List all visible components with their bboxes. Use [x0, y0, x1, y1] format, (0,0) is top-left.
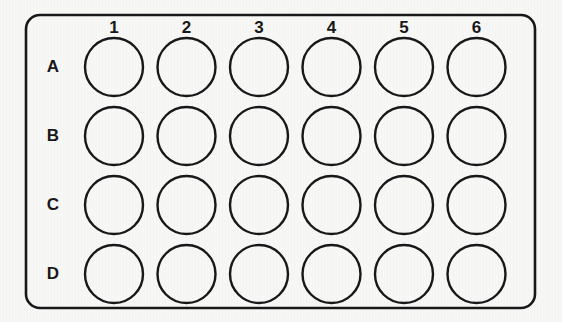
row-label-b: B	[40, 127, 66, 145]
well-d1[interactable]	[85, 245, 143, 303]
well-a4[interactable]	[303, 38, 361, 96]
column-label-4: 4	[319, 19, 345, 36]
row-label-c: C	[40, 196, 66, 214]
column-label-6: 6	[464, 19, 490, 36]
well-b4[interactable]	[303, 107, 361, 165]
well-d5[interactable]	[375, 245, 433, 303]
well-d6[interactable]	[448, 245, 506, 303]
well-d3[interactable]	[230, 245, 288, 303]
well-d4[interactable]	[303, 245, 361, 303]
microplate-figure: 123456 ABCD	[0, 0, 562, 322]
column-label-1: 1	[101, 19, 127, 36]
well-a6[interactable]	[448, 38, 506, 96]
well-b2[interactable]	[158, 107, 216, 165]
well-b1[interactable]	[85, 107, 143, 165]
row-label-a: A	[40, 58, 66, 76]
well-c1[interactable]	[85, 176, 143, 234]
plate-svg	[0, 0, 562, 322]
well-d2[interactable]	[158, 245, 216, 303]
well-a3[interactable]	[230, 38, 288, 96]
well-c4[interactable]	[303, 176, 361, 234]
well-b3[interactable]	[230, 107, 288, 165]
well-c3[interactable]	[230, 176, 288, 234]
well-a5[interactable]	[375, 38, 433, 96]
row-label-d: D	[40, 265, 66, 283]
column-label-3: 3	[246, 19, 272, 36]
well-b5[interactable]	[375, 107, 433, 165]
column-label-5: 5	[391, 19, 417, 36]
well-b6[interactable]	[448, 107, 506, 165]
well-c5[interactable]	[375, 176, 433, 234]
well-a2[interactable]	[158, 38, 216, 96]
well-c6[interactable]	[448, 176, 506, 234]
column-label-2: 2	[174, 19, 200, 36]
well-a1[interactable]	[85, 38, 143, 96]
wells-group	[85, 38, 506, 303]
well-c2[interactable]	[158, 176, 216, 234]
